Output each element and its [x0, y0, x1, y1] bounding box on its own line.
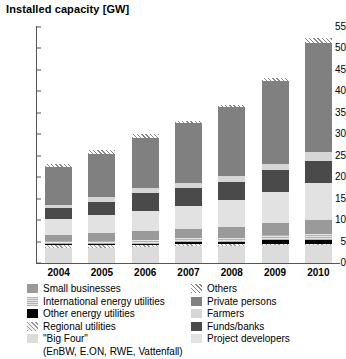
bar-segment-funds — [218, 182, 245, 201]
bar-segment-bigfour — [175, 246, 202, 263]
bar-segment-private — [262, 81, 289, 163]
stacked-bar[interactable] — [218, 105, 245, 263]
legend-swatch-bigfour — [27, 334, 38, 343]
x-axis-labels: 2004200520062007200820092010 — [37, 266, 340, 282]
x-axis-label: 2008 — [210, 266, 253, 282]
legend-column-right: OthersPrivate personsFarmersFunds/banksP… — [191, 283, 290, 346]
stacked-bar[interactable] — [45, 164, 72, 263]
bar-slot — [167, 27, 210, 263]
legend-label: Funds/banks — [207, 321, 264, 332]
legend-column-left: Small businessesInternational energy uti… — [27, 283, 183, 357]
legend-swatch-intlutil — [27, 297, 38, 306]
bar-segment-bigfour — [218, 246, 245, 263]
chart-legend: Small businessesInternational energy uti… — [0, 283, 346, 359]
bar-segment-bigfour — [262, 245, 289, 263]
bar-segment-projdev — [132, 211, 159, 232]
bar-segment-smallbiz — [262, 223, 289, 235]
bar-segment-private — [45, 167, 72, 205]
stacked-bar[interactable] — [175, 121, 202, 263]
bar-segment-private — [132, 138, 159, 188]
bar-segment-funds — [132, 193, 159, 211]
bar-segment-projdev — [88, 215, 115, 233]
bar-segment-private — [305, 43, 332, 152]
bar-segment-bigfour — [88, 248, 115, 263]
legend-item-regional[interactable]: Regional utilities — [27, 321, 183, 334]
legend-swatch-private — [191, 297, 202, 306]
legend-label: Other energy utilities — [43, 308, 135, 319]
bar-segment-projdev — [218, 200, 245, 227]
bar-segment-funds — [305, 161, 332, 184]
x-axis-label: 2006 — [124, 266, 167, 282]
x-axis-label: 2004 — [37, 266, 80, 282]
legend-item-others[interactable]: Others — [191, 283, 290, 296]
legend-item-funds[interactable]: Funds/banks — [191, 321, 290, 334]
legend-label: Farmers — [207, 308, 244, 319]
bar-segment-funds — [175, 188, 202, 206]
legend-label: Project developers — [207, 333, 290, 344]
bar-segment-farmers — [305, 152, 332, 161]
bar-segment-smallbiz — [305, 220, 332, 235]
bar-slot — [297, 27, 340, 263]
legend-swatch-farmers — [191, 309, 202, 318]
bar-slot — [253, 27, 296, 263]
x-axis-label: 2010 — [297, 266, 340, 282]
bar-segment-projdev — [262, 192, 289, 223]
legend-swatch-funds — [191, 322, 202, 331]
chart-title: Installed capacity [GW] — [6, 3, 129, 15]
bar-segment-private — [175, 123, 202, 183]
legend-item-projdev[interactable]: Project developers — [191, 333, 290, 346]
legend-subnote: (EnBW, E.ON, RWE, Vattenfall) — [27, 346, 183, 357]
bar-slot — [210, 27, 253, 263]
bar-segment-projdev — [175, 206, 202, 229]
legend-swatch-others — [191, 284, 202, 293]
bar-segment-funds — [45, 208, 72, 220]
legend-label: Others — [207, 283, 237, 294]
legend-label: Small businesses — [43, 283, 121, 294]
bar-segment-funds — [88, 202, 115, 215]
legend-item-intlutil[interactable]: International energy utilities — [27, 296, 183, 309]
chart-container: Installed capacity [GW] 0510152025303540… — [0, 0, 346, 359]
stacked-bar[interactable] — [305, 38, 332, 263]
legend-swatch-regional — [27, 322, 38, 331]
bar-segment-bigfour — [305, 245, 332, 263]
bar-segment-funds — [262, 170, 289, 191]
x-axis-label: 2005 — [80, 266, 123, 282]
legend-swatch-projdev — [191, 334, 202, 343]
bar-segment-projdev — [305, 183, 332, 219]
legend-item-private[interactable]: Private persons — [191, 296, 290, 309]
bar-segment-smallbiz — [175, 229, 202, 238]
plot-area — [37, 27, 340, 263]
bar-segment-private — [88, 154, 115, 197]
bar-slot — [124, 27, 167, 263]
stacked-bar[interactable] — [262, 78, 289, 263]
legend-item-smallbiz[interactable]: Small businesses — [27, 283, 183, 296]
stacked-bar[interactable] — [88, 150, 115, 263]
x-axis-line — [36, 263, 340, 264]
bar-segment-smallbiz — [132, 231, 159, 240]
bar-segment-projdev — [45, 219, 72, 234]
stacked-bar[interactable] — [132, 134, 159, 263]
legend-label: Private persons — [207, 296, 276, 307]
bar-segment-farmers — [262, 164, 289, 171]
legend-swatch-smallbiz — [27, 284, 38, 293]
bar-segment-private — [218, 107, 245, 175]
bar-segment-smallbiz — [88, 233, 115, 240]
legend-swatch-otherutil — [27, 309, 38, 318]
bar-slot — [37, 27, 80, 263]
x-axis-label: 2007 — [167, 266, 210, 282]
bar-segment-bigfour — [132, 247, 159, 263]
legend-item-farmers[interactable]: Farmers — [191, 308, 290, 321]
legend-label: International energy utilities — [43, 296, 165, 307]
bar-segment-bigfour — [45, 248, 72, 263]
bar-segment-smallbiz — [218, 227, 245, 237]
x-axis-label: 2009 — [253, 266, 296, 282]
legend-item-otherutil[interactable]: Other energy utilities — [27, 308, 183, 321]
bar-group — [37, 27, 340, 263]
bar-slot — [80, 27, 123, 263]
legend-label: "Big Four" — [43, 333, 88, 344]
legend-item-bigfour[interactable]: "Big Four" — [27, 333, 183, 346]
legend-label: Regional utilities — [43, 321, 116, 332]
